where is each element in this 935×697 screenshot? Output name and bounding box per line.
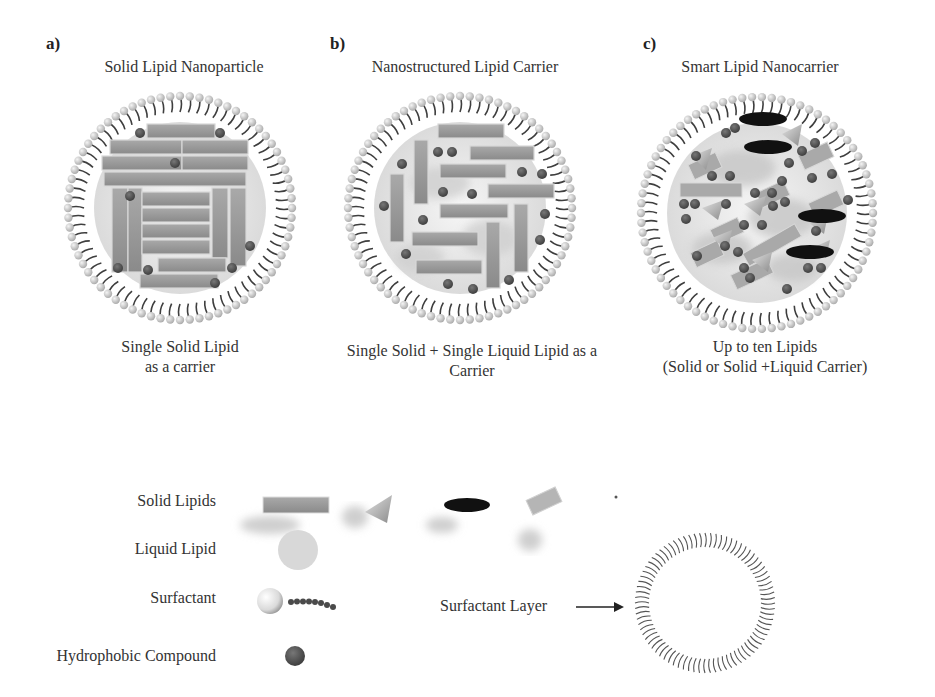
panel-a-caption-line2: as a carrier [60,357,300,377]
panel-c-title: Smart Lipid Nanocarrier [660,58,860,76]
legend-label-liquid-lipid: Liquid Lipid [80,540,216,558]
smart-lipid-nanocarrier-diagram [632,88,882,338]
panel-b-letter: b) [330,34,345,54]
surfactant-layer-label: Surfactant Layer [440,597,547,615]
panel-b-title: Nanostructured Lipid Carrier [355,58,575,76]
panel-a-caption: Single Solid Lipid as a carrier [60,337,300,377]
panel-c-letter: c) [643,34,656,54]
panel-c-caption: Up to ten Lipids (Solid or Solid +Liquid… [630,337,900,377]
panel-a-caption-line1: Single Solid Lipid [60,337,300,357]
panel-b-caption: Single Solid + Single Liquid Lipid as a … [312,341,632,381]
legend-label-solid-lipids: Solid Lipids [80,492,216,510]
panel-c-caption-line2: (Solid or Solid +Liquid Carrier) [630,357,900,377]
legend-label-hydrophobic-compound: Hydrophobic Compound [0,647,216,665]
surfactant-layer-ring [632,530,778,676]
panel-b-caption-line1: Single Solid + Single Liquid Lipid as a [312,341,632,361]
nanostructured-lipid-carrier-diagram [340,88,580,328]
arrow-right-icon [576,600,626,614]
panel-a-letter: a) [46,34,60,54]
solid-lipid-nanoparticle-diagram [60,88,300,328]
panel-c-caption-line1: Up to ten Lipids [630,337,900,357]
legend-label-surfactant: Surfactant [80,589,216,607]
panel-a-title: Solid Lipid Nanoparticle [84,58,284,76]
hydrophobic-compound-dot-icon [284,645,306,669]
surfactant-molecule-icon [256,586,346,616]
panel-b-caption-line2: Carrier [312,361,632,381]
liquid-lipid-blob-icon [276,528,320,572]
